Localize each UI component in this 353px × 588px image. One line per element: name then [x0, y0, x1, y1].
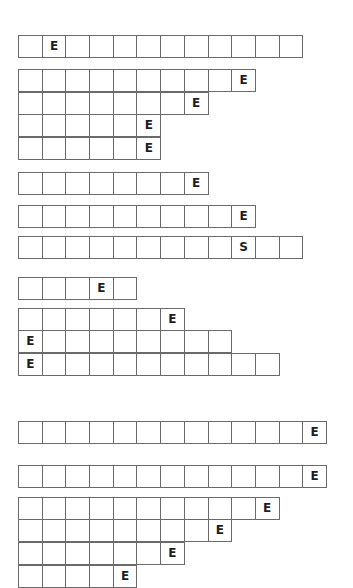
letter-cell[interactable]: E [42, 35, 67, 58]
empty-cell[interactable] [113, 92, 138, 115]
letter-cell[interactable]: E [89, 277, 114, 300]
empty-cell[interactable] [65, 35, 90, 58]
empty-cell[interactable] [231, 421, 256, 444]
empty-cell[interactable] [65, 205, 90, 228]
empty-cell[interactable] [42, 236, 67, 259]
empty-cell[interactable] [160, 465, 185, 488]
empty-cell[interactable] [208, 35, 233, 58]
empty-cell[interactable] [89, 330, 114, 353]
empty-cell[interactable] [18, 465, 43, 488]
empty-cell[interactable] [208, 353, 233, 376]
empty-cell[interactable] [136, 330, 161, 353]
empty-cell[interactable] [18, 69, 43, 92]
empty-cell[interactable] [89, 308, 114, 331]
letter-cell[interactable]: E [136, 137, 161, 160]
empty-cell[interactable] [255, 236, 280, 259]
empty-cell[interactable] [89, 35, 114, 58]
empty-cell[interactable] [208, 236, 233, 259]
empty-cell[interactable] [65, 421, 90, 444]
letter-cell[interactable]: E [231, 69, 256, 92]
empty-cell[interactable] [255, 35, 280, 58]
empty-cell[interactable] [89, 205, 114, 228]
empty-cell[interactable] [42, 69, 67, 92]
empty-cell[interactable] [208, 69, 233, 92]
empty-cell[interactable] [18, 542, 43, 565]
empty-cell[interactable] [65, 236, 90, 259]
empty-cell[interactable] [65, 497, 90, 520]
empty-cell[interactable] [42, 308, 67, 331]
empty-cell[interactable] [113, 277, 138, 300]
empty-cell[interactable] [42, 565, 67, 588]
empty-cell[interactable] [42, 330, 67, 353]
empty-cell[interactable] [113, 542, 138, 565]
empty-cell[interactable] [184, 519, 209, 542]
letter-cell[interactable]: E [160, 542, 185, 565]
empty-cell[interactable] [160, 205, 185, 228]
empty-cell[interactable] [255, 421, 280, 444]
empty-cell[interactable] [18, 277, 43, 300]
empty-cell[interactable] [279, 465, 304, 488]
empty-cell[interactable] [18, 308, 43, 331]
empty-cell[interactable] [65, 114, 90, 137]
empty-cell[interactable] [113, 465, 138, 488]
empty-cell[interactable] [89, 69, 114, 92]
letter-cell[interactable]: E [18, 330, 43, 353]
empty-cell[interactable] [65, 92, 90, 115]
empty-cell[interactable] [89, 236, 114, 259]
empty-cell[interactable] [255, 353, 280, 376]
letter-cell[interactable]: E [208, 519, 233, 542]
letter-cell[interactable]: E [255, 497, 280, 520]
empty-cell[interactable] [18, 421, 43, 444]
empty-cell[interactable] [184, 330, 209, 353]
letter-cell[interactable]: E [113, 565, 138, 588]
empty-cell[interactable] [184, 421, 209, 444]
empty-cell[interactable] [255, 465, 280, 488]
empty-cell[interactable] [160, 35, 185, 58]
empty-cell[interactable] [42, 542, 67, 565]
empty-cell[interactable] [42, 172, 67, 195]
empty-cell[interactable] [136, 236, 161, 259]
empty-cell[interactable] [231, 465, 256, 488]
letter-cell[interactable]: E [136, 114, 161, 137]
empty-cell[interactable] [136, 92, 161, 115]
empty-cell[interactable] [279, 421, 304, 444]
empty-cell[interactable] [89, 497, 114, 520]
empty-cell[interactable] [18, 92, 43, 115]
empty-cell[interactable] [231, 497, 256, 520]
empty-cell[interactable] [136, 172, 161, 195]
empty-cell[interactable] [136, 519, 161, 542]
empty-cell[interactable] [136, 542, 161, 565]
empty-cell[interactable] [113, 330, 138, 353]
empty-cell[interactable] [42, 519, 67, 542]
empty-cell[interactable] [136, 353, 161, 376]
empty-cell[interactable] [208, 465, 233, 488]
empty-cell[interactable] [89, 172, 114, 195]
empty-cell[interactable] [65, 277, 90, 300]
empty-cell[interactable] [89, 519, 114, 542]
empty-cell[interactable] [89, 353, 114, 376]
empty-cell[interactable] [160, 353, 185, 376]
empty-cell[interactable] [42, 353, 67, 376]
empty-cell[interactable] [160, 330, 185, 353]
empty-cell[interactable] [65, 308, 90, 331]
letter-cell[interactable]: E [184, 172, 209, 195]
empty-cell[interactable] [18, 236, 43, 259]
empty-cell[interactable] [42, 277, 67, 300]
empty-cell[interactable] [160, 92, 185, 115]
empty-cell[interactable] [113, 137, 138, 160]
empty-cell[interactable] [65, 542, 90, 565]
empty-cell[interactable] [136, 69, 161, 92]
empty-cell[interactable] [89, 92, 114, 115]
empty-cell[interactable] [160, 236, 185, 259]
empty-cell[interactable] [279, 236, 304, 259]
empty-cell[interactable] [18, 565, 43, 588]
empty-cell[interactable] [113, 519, 138, 542]
empty-cell[interactable] [231, 35, 256, 58]
empty-cell[interactable] [136, 497, 161, 520]
empty-cell[interactable] [42, 465, 67, 488]
empty-cell[interactable] [184, 35, 209, 58]
empty-cell[interactable] [113, 236, 138, 259]
empty-cell[interactable] [18, 519, 43, 542]
empty-cell[interactable] [65, 565, 90, 588]
letter-cell[interactable]: E [18, 353, 43, 376]
